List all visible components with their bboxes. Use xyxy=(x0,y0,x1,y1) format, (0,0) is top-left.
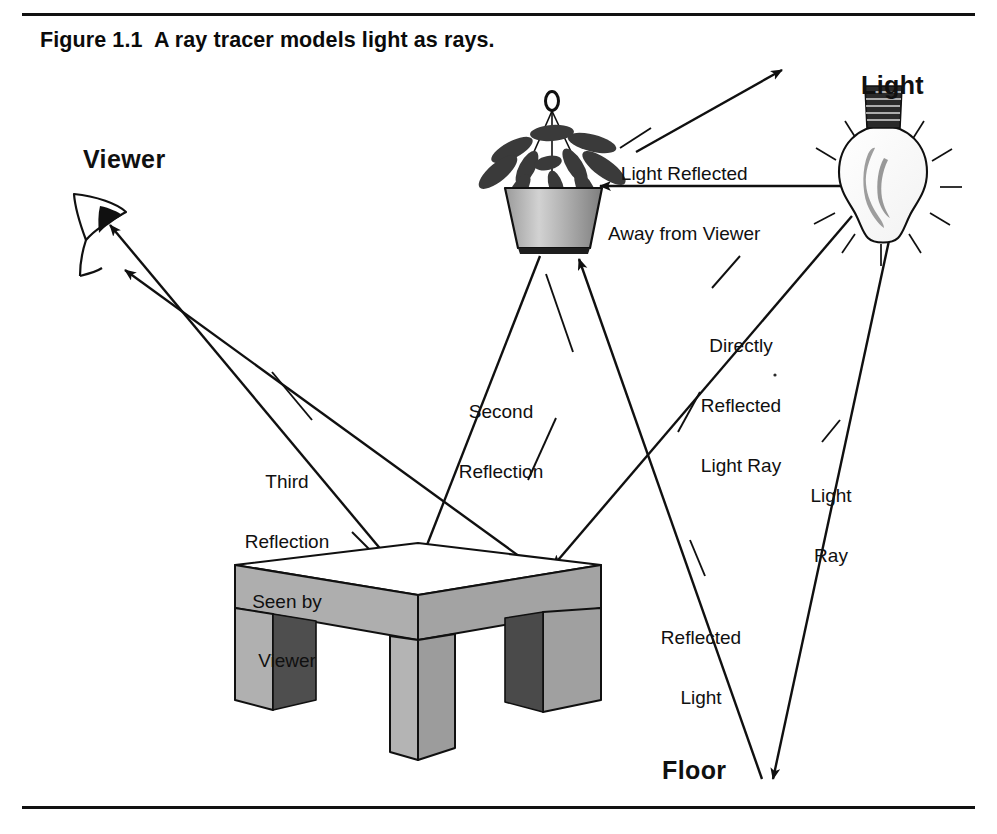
label-light-ray-line1: Light xyxy=(803,486,859,506)
label-viewer: Viewer xyxy=(83,146,166,172)
label-third-reflection-line1: Third xyxy=(226,472,348,492)
figure-page: Figure 1.1 A ray tracer models light as … xyxy=(0,0,997,834)
light-bulb-icon xyxy=(806,86,962,266)
label-reflected-light: Reflected Light xyxy=(654,588,748,748)
label-third-reflection-line2: Reflection xyxy=(226,532,348,552)
label-third-reflection-line3: Seen by xyxy=(226,592,348,612)
label-light-reflected-away-line2: Away from Viewer xyxy=(608,224,760,244)
label-second-reflection-line1: Second xyxy=(447,402,555,422)
label-reflected-light-line2: Light xyxy=(654,688,748,708)
hanging-plant-icon xyxy=(474,92,630,255)
label-light-ray: Light Ray xyxy=(803,446,859,606)
label-reflected-light-line1: Reflected xyxy=(654,628,748,648)
label-third-reflection: Third Reflection Seen by Viewer xyxy=(226,432,348,711)
label-light: Light xyxy=(861,72,924,98)
leader-reflected-light xyxy=(690,540,705,576)
label-light-ray-line2: Ray xyxy=(803,546,859,566)
label-directly-reflected-line1: Directly xyxy=(693,336,789,356)
label-second-reflection-line2: Reflection xyxy=(447,462,555,482)
label-third-reflection-line4: Viewer xyxy=(226,651,348,671)
leader-third-reflection xyxy=(272,372,312,420)
label-light-reflected-away: Light Reflected Away from Viewer xyxy=(608,124,760,284)
label-second-reflection: Second Reflection xyxy=(447,362,555,522)
label-directly-reflected-line3: Light Ray xyxy=(693,456,789,476)
label-floor: Floor xyxy=(662,757,727,783)
leader-second-reflection-top xyxy=(546,274,573,352)
leader-light-ray xyxy=(822,420,840,442)
label-directly-reflected-line2: Reflected xyxy=(693,396,789,416)
label-directly-reflected: Directly Reflected Light Ray xyxy=(693,296,789,515)
label-light-reflected-away-line1: Light Reflected xyxy=(608,164,760,184)
